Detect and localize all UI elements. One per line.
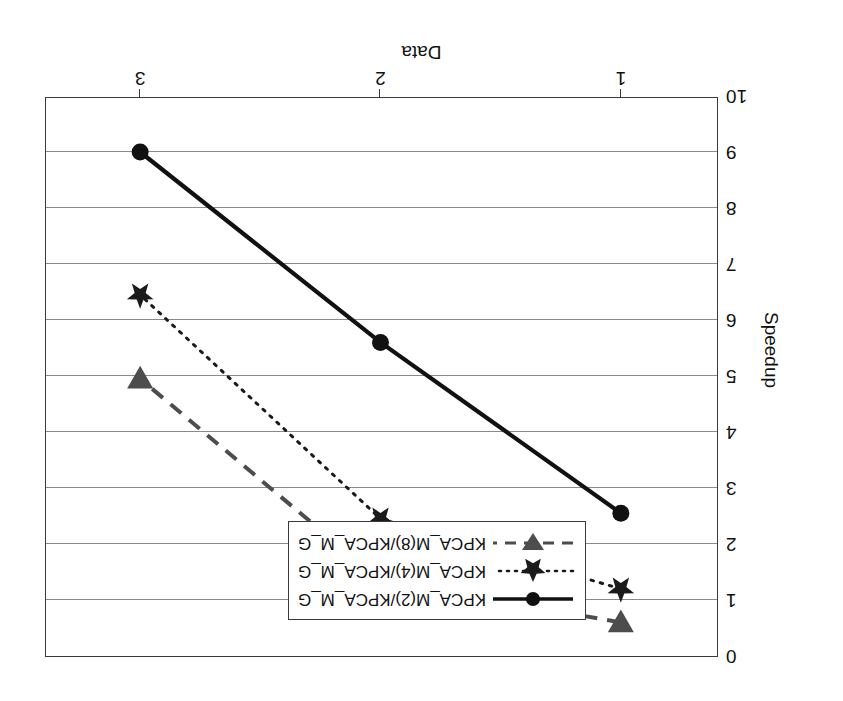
x-tick-label: 2	[375, 67, 386, 89]
y-tick-label: 0	[717, 645, 737, 667]
legend-label: KPCA_M(4)/KPCA_M_G	[298, 561, 490, 581]
legend-sample-dotted-star	[490, 558, 576, 584]
y-tick-label: 1	[717, 589, 737, 611]
data-point-triangle	[127, 366, 153, 389]
chart-figure: Speedup Data 012345678910 123 KPCA_M(2)/…	[0, 0, 843, 701]
data-point-star	[127, 283, 154, 308]
series-circle	[132, 144, 630, 522]
legend-item: KPCA_M(2)/KPCA_M_G	[298, 585, 576, 613]
rotated-scan-container: Speedup Data 012345678910 123 KPCA_M(2)/…	[0, 0, 843, 701]
y-tick-label: 3	[717, 477, 737, 499]
y-tick-label: 5	[717, 365, 737, 387]
figure-page: Speedup Data 012345678910 123 KPCA_M(2)/…	[0, 0, 843, 701]
x-axis-title: Data	[401, 41, 441, 63]
data-point-circle	[372, 334, 389, 351]
legend-item: KPCA_M(4)/KPCA_M_G	[298, 557, 576, 585]
series-line	[140, 152, 621, 513]
y-tick-label: 9	[717, 141, 737, 163]
legend-label: KPCA_M(2)/KPCA_M_G	[298, 589, 490, 609]
x-tick-label: 3	[135, 67, 146, 89]
y-tick-label: 10	[717, 85, 747, 107]
y-tick-label: 4	[717, 421, 737, 443]
y-tick-label: 8	[717, 197, 737, 219]
y-axis-title: Speedup	[760, 312, 782, 388]
legend-sample-dashed-triangle	[490, 530, 576, 556]
data-point-star	[608, 577, 635, 602]
data-point-circle	[132, 144, 149, 161]
legend-label: KPCA_M(8)/KPCA_M_G	[298, 533, 490, 553]
plot-area: 012345678910 123 KPCA_M(2)/KPCA_M_G	[45, 97, 718, 657]
y-tick-label: 7	[717, 253, 737, 275]
legend-sample-line-circle	[490, 586, 576, 612]
legend-item: KPCA_M(8)/KPCA_M_G	[298, 529, 576, 557]
x-tick-label: 1	[616, 67, 627, 89]
y-tick-label: 2	[717, 533, 737, 555]
y-tick-label: 6	[717, 309, 737, 331]
data-point-circle	[612, 505, 629, 522]
legend: KPCA_M(2)/KPCA_M_G KPCA_M(4)/KPCA_M_G	[288, 521, 586, 620]
